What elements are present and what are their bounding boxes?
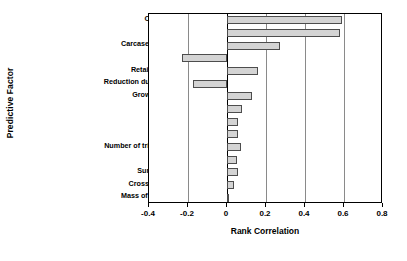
- x-axis-tick: [304, 203, 305, 207]
- bar: [182, 54, 227, 62]
- x-axis-tick: [148, 203, 149, 207]
- bar: [227, 105, 242, 113]
- x-axis-tick-labels: -0.4-0.200.20.40.60.8: [148, 209, 382, 223]
- bar: [227, 194, 229, 202]
- y-axis-title-text: Predictive Factor: [5, 67, 15, 138]
- bar: [227, 42, 280, 50]
- bars-layer: [149, 14, 381, 202]
- bar: [227, 181, 234, 189]
- x-axis-tick-label: -0.4: [141, 209, 155, 218]
- bar: [227, 67, 258, 75]
- plot-area: [148, 13, 382, 203]
- x-axis-tick: [187, 203, 188, 207]
- x-axis-tick-label: 0.8: [376, 209, 387, 218]
- bar: [227, 156, 237, 164]
- x-axis-tick: [226, 203, 227, 207]
- y-axis-title: Predictive Factor: [0, 0, 20, 205]
- x-axis-tick-label: 0: [224, 209, 228, 218]
- bar: [227, 118, 238, 126]
- x-axis-tick: [382, 203, 383, 207]
- x-axis-title: Rank Correlation: [148, 226, 382, 236]
- x-axis-tick-label: -0.2: [180, 209, 194, 218]
- rank-correlation-tornado-chart: Predictive Factor Concentration in feces…: [0, 0, 407, 261]
- x-axis-tick-label: 0.2: [259, 209, 270, 218]
- x-axis-tick: [343, 203, 344, 207]
- x-axis-tick-label: 0.6: [337, 209, 348, 218]
- bar: [227, 143, 241, 151]
- bar: [193, 80, 227, 88]
- x-axis-tick-label: 0.4: [298, 209, 309, 218]
- bar: [227, 16, 342, 24]
- bar: [227, 130, 238, 138]
- x-axis-tick: [265, 203, 266, 207]
- bar: [227, 168, 238, 176]
- bar: [227, 92, 252, 100]
- bar: [227, 29, 340, 37]
